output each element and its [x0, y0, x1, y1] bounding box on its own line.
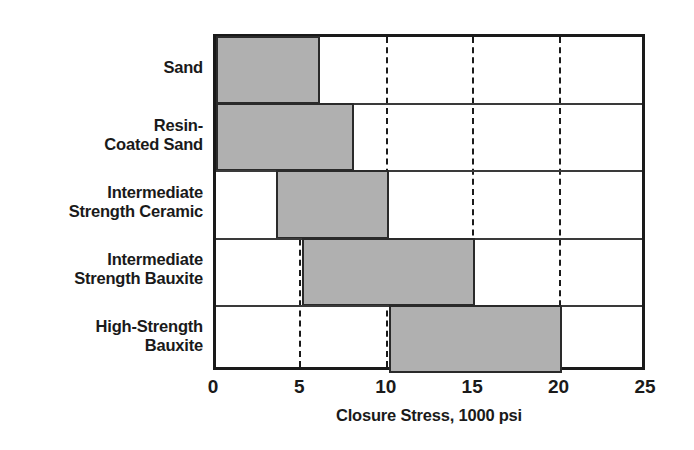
x-tick-label-15: 15: [442, 376, 502, 398]
category-label-line: High-Strength: [0, 317, 203, 336]
category-label-intermediate-strength-ceramic: IntermediateStrength Ceramic: [0, 183, 203, 221]
category-label-line: Intermediate: [0, 250, 203, 269]
category-label-line: Coated Sand: [0, 135, 203, 154]
category-label-line: Sand: [0, 58, 203, 77]
bar-resin-coated-sand: [216, 103, 354, 171]
x-tick-label-10: 10: [356, 376, 416, 398]
category-label-intermediate-strength-bauxite: IntermediateStrength Bauxite: [0, 250, 203, 288]
category-label-line: Strength Bauxite: [0, 269, 203, 288]
category-label-high-strength-bauxite: High-StrengthBauxite: [0, 317, 203, 355]
x-axis-tick-labels: 0510152025: [0, 376, 694, 402]
category-label-sand: Sand: [0, 58, 203, 77]
category-axis-labels: SandResin-Coated SandIntermediateStrengt…: [0, 34, 203, 370]
closure-stress-range-chart: SandResin-Coated SandIntermediateStrengt…: [0, 0, 694, 450]
bar-intermediate-strength-ceramic: [276, 170, 388, 238]
plot-area: [213, 34, 645, 370]
bar-sand: [216, 36, 320, 104]
x-tick-label-20: 20: [529, 376, 589, 398]
bar-intermediate-strength-bauxite: [302, 238, 475, 306]
x-tick-label-0: 0: [183, 376, 243, 398]
category-label-line: Resin-: [0, 116, 203, 135]
bar-high-strength-bauxite: [389, 305, 562, 373]
x-axis-title: Closure Stress, 1000 psi: [213, 406, 645, 425]
category-label-line: Bauxite: [0, 336, 203, 355]
category-label-line: Strength Ceramic: [0, 202, 203, 221]
category-label-line: Intermediate: [0, 183, 203, 202]
category-label-resin-coated-sand: Resin-Coated Sand: [0, 116, 203, 154]
x-tick-label-5: 5: [269, 376, 329, 398]
x-tick-label-25: 25: [615, 376, 675, 398]
plot-inner: [216, 37, 642, 367]
